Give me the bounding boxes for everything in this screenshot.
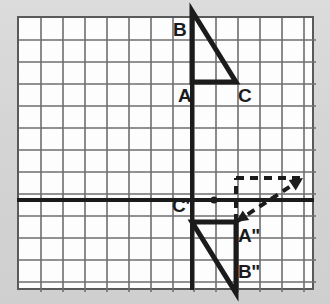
vertex-label-c-double-prime: C": [172, 196, 194, 215]
vertex-label-a-double-prime: A": [238, 226, 260, 245]
vertex-label-b: B: [173, 20, 186, 39]
vertex-label-c: C: [238, 86, 251, 105]
vertex-label-a: A: [178, 86, 191, 105]
vertex-label-b-double-prime: B": [238, 262, 260, 281]
figure-canvas: A B C A" B" C": [0, 0, 330, 304]
grid-panel: [17, 16, 314, 290]
grid-lines: [19, 18, 316, 292]
